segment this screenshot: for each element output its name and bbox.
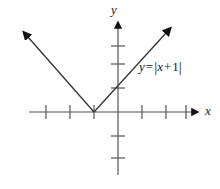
- y-axis-label: y: [111, 3, 117, 16]
- curve-left-branch: [28, 37, 94, 112]
- y-axis: [111, 28, 125, 175]
- equation-inner-plus: +: [163, 59, 172, 74]
- equation-open-bar: |: [154, 59, 157, 75]
- graph-figure: y x y=|x+1|: [0, 0, 220, 189]
- x-axis: [29, 105, 192, 119]
- x-axis-label: x: [205, 104, 211, 117]
- coordinate-plane-graphic: [0, 0, 220, 189]
- equation-lhs: y: [139, 59, 145, 74]
- equation-close-bar: |: [179, 59, 182, 75]
- equation-operator: =: [145, 59, 154, 74]
- equation-annotation: y=|x+1|: [139, 59, 182, 74]
- equation-inner-constant: 1: [172, 59, 179, 74]
